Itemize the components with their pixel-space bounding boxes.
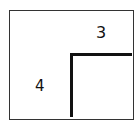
label-left-number: 4 [35,79,45,94]
l-shape-vertical-line [70,53,73,117]
l-shape-horizontal-line [70,53,132,56]
label-top-number: 3 [96,25,106,41]
